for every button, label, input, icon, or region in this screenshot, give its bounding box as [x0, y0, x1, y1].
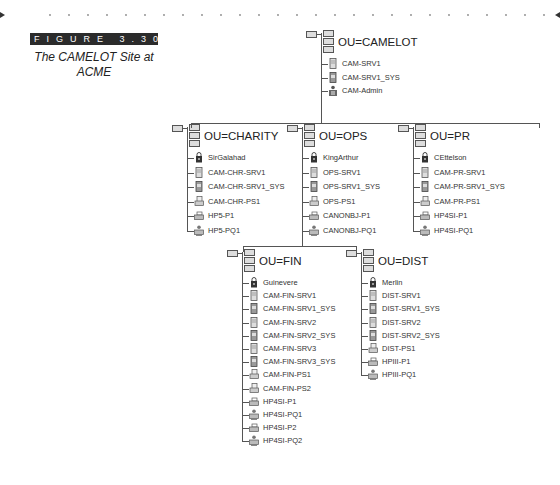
connector-line: [242, 375, 249, 376]
ou-icon: [323, 46, 334, 53]
connector-line: [187, 231, 194, 232]
ou-icon: [304, 124, 315, 131]
ou-icon: [363, 257, 374, 264]
item-label: HP5-P1: [208, 211, 234, 221]
ou-label[interactable]: OU=CAMELOT: [338, 36, 418, 48]
ou-label[interactable]: OU=OPS: [319, 130, 367, 142]
connector-line: [187, 158, 194, 159]
item-label: Guinevere: [263, 278, 298, 288]
connector-line: [242, 415, 249, 416]
connector-line: [413, 127, 414, 232]
item-label: HP5-PQ1: [208, 226, 240, 236]
dotted-rule: [0, 10, 560, 20]
item-label: CANONBJ-P1: [323, 211, 371, 221]
print-server-icon: [368, 343, 378, 354]
print-queue-icon: [249, 409, 259, 420]
connector-line: [191, 123, 539, 124]
item-label: CAM-PR-PS1: [434, 197, 480, 207]
connector-line: [242, 428, 249, 429]
connector-line: [302, 216, 309, 217]
connector-line: [321, 91, 328, 92]
print-queue-icon: [368, 369, 378, 380]
connector-line: [361, 375, 368, 376]
connector-line: [302, 173, 309, 174]
ou-label[interactable]: OU=PR: [430, 130, 470, 142]
volume-icon: [368, 330, 378, 341]
ou-icon: [244, 257, 255, 264]
item-label: HP4SI-P1: [263, 397, 296, 407]
connector-line: [242, 362, 249, 363]
item-label: CAM-CHR-SRV1_SYS: [208, 182, 285, 192]
ou-label[interactable]: OU=FIN: [259, 255, 302, 267]
item-label: HP4SI-PQ1: [434, 226, 473, 236]
connector-line: [361, 336, 368, 337]
connector-line: [361, 252, 362, 376]
item-label: CAM-SRV1: [342, 59, 381, 69]
server-icon: [194, 167, 204, 178]
connector-line: [413, 158, 420, 159]
item-label: CAM-PR-SRV1_SYS: [434, 182, 505, 192]
item-label: DIST-SRV1: [382, 291, 421, 301]
user-icon: [420, 152, 430, 163]
connector-line: [361, 362, 368, 363]
item-label: HP4SI-PQ2: [263, 436, 302, 446]
connector-line: [321, 78, 328, 79]
ou-label[interactable]: OU=CHARITY: [204, 130, 278, 142]
container-icon: [172, 125, 183, 132]
connector-line: [243, 246, 356, 247]
server-icon: [249, 343, 259, 354]
connector-line: [187, 216, 194, 217]
user-icon: [309, 152, 319, 163]
item-label: CAM-SRV1_SYS: [342, 73, 400, 83]
connector-line: [413, 173, 420, 174]
connector-line: [413, 216, 420, 217]
printer-icon: [194, 210, 204, 221]
container-icon: [398, 125, 409, 132]
ou-icon: [415, 140, 426, 147]
connector-line: [242, 309, 249, 310]
item-label: DIST-SRV2: [382, 318, 421, 328]
print-server-icon: [194, 196, 204, 207]
server-icon: [420, 167, 430, 178]
user-icon: [368, 277, 378, 288]
volume-icon: [420, 181, 430, 192]
connector-line: [361, 296, 368, 297]
connector-line: [187, 202, 194, 203]
volume-icon: [328, 72, 338, 83]
figure-badge: FIGURE 3.30: [30, 33, 158, 45]
volume-icon: [249, 356, 259, 367]
connector-line: [302, 202, 309, 203]
caption-line-1: The CAMELOT Site at: [30, 50, 158, 65]
user-icon: [194, 152, 204, 163]
print-server-icon: [249, 369, 259, 380]
connector-line: [242, 296, 249, 297]
item-label: CAM-FIN-PS2: [263, 384, 311, 394]
print-queue-icon: [420, 225, 430, 236]
connector-line: [187, 173, 194, 174]
connector-line: [302, 158, 309, 159]
item-label: HPIII-P1: [382, 357, 410, 367]
print-server-icon: [249, 383, 259, 394]
print-server-icon: [420, 196, 430, 207]
item-label: CAM-FIN-SRV3: [263, 344, 316, 354]
ou-icon: [323, 30, 334, 37]
volume-icon: [249, 303, 259, 314]
ou-label[interactable]: OU=DIST: [378, 255, 428, 267]
connector-line: [413, 231, 420, 232]
connector-line: [302, 187, 309, 188]
connector-line: [191, 123, 192, 128]
container-icon: [287, 125, 298, 132]
printer-icon: [368, 356, 378, 367]
ou-icon: [189, 140, 200, 147]
connector-line: [242, 389, 249, 390]
ou-icon: [244, 249, 255, 256]
ou-icon: [363, 249, 374, 256]
ou-icon: [304, 140, 315, 147]
connector-line: [242, 252, 243, 442]
printer-icon: [309, 210, 319, 221]
item-label: DIST-SRV2_SYS: [382, 331, 440, 341]
caption-line-2: ACME: [30, 65, 158, 80]
ou-icon: [415, 124, 426, 131]
server-icon: [249, 290, 259, 301]
connector-line: [413, 187, 420, 188]
